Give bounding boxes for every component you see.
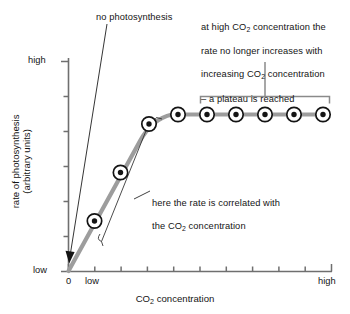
data-point: [113, 165, 127, 179]
x-axis: [69, 264, 333, 272]
annotation-correlated-line2: the CO2 concentration: [152, 221, 332, 234]
annotation-correlated-l2-post: concentration: [186, 221, 246, 231]
x-axis-title: CO2 concentration: [0, 293, 350, 306]
x-axis-title-post: concentration: [154, 293, 214, 304]
y-axis-tick-label-low: low: [33, 265, 47, 275]
chart-figure: no photosynthesis at high CO2 concentrat…: [0, 0, 350, 314]
x-axis-tick-label-high: high: [318, 276, 336, 286]
y-axis-tick-label-high: high: [28, 55, 46, 65]
annotation-plateau-l1-pre: at high CO: [201, 22, 246, 32]
x-axis-title-pre: CO: [136, 293, 150, 304]
y-axis-title-line1: rate of photosynthesis: [10, 96, 21, 226]
y-axis-title-line2: (arbitrary units): [21, 96, 32, 226]
annotation-plateau-line1: at high CO2 concentration the: [201, 22, 347, 35]
no-photosynthesis-leader: [66, 24, 108, 264]
annotation-no-photosynthesis-text: no photosynthesis: [96, 12, 173, 22]
x-axis-tick-label-low: low: [85, 276, 99, 286]
data-point: [87, 214, 101, 228]
annotation-no-photosynthesis: no photosynthesis: [96, 12, 173, 24]
annotation-plateau-line4: – a plateau is reached: [201, 94, 347, 106]
annotation-plateau-l3-post: concentration: [265, 69, 325, 79]
annotation-correlated: here the rate is correlated with the CO2…: [152, 186, 332, 245]
annotation-plateau-l3-pre: increasing CO: [201, 69, 261, 79]
annotation-plateau-line3: increasing CO2 concentration: [201, 69, 347, 82]
annotation-plateau-l1-post: concentration the: [250, 22, 326, 32]
correlation-leader-line: [134, 191, 150, 199]
annotation-plateau-line2: rate no longer increases with: [201, 46, 347, 58]
annotation-correlated-line1: here the rate is correlated with: [152, 198, 332, 210]
x-axis-tick-label-zero: 0: [66, 276, 71, 286]
data-point: [142, 117, 156, 131]
annotation-correlated-l2-pre: the CO: [152, 221, 182, 231]
y-axis-title: rate of photosynthesis (arbitrary units): [10, 96, 33, 226]
data-point: [171, 107, 185, 121]
annotation-plateau: at high CO2 concentration the rate no lo…: [201, 10, 347, 117]
y-axis: [61, 58, 69, 272]
